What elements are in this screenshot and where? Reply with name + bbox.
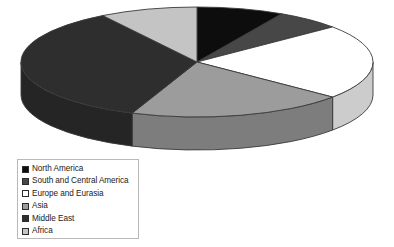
pie-chart: North America South and Central America … xyxy=(0,0,394,247)
legend-swatch-asia xyxy=(22,203,29,210)
legend-label-north-america: North America xyxy=(32,163,83,175)
legend-swatch-north-america xyxy=(22,166,29,173)
legend-item-europe-and-eurasia[interactable]: Europe and Eurasia xyxy=(22,188,138,200)
legend-item-south-and-central-america[interactable]: South and Central America xyxy=(22,175,138,187)
legend-label-south-and-central-america: South and Central America xyxy=(32,175,129,187)
legend-swatch-africa xyxy=(22,228,29,235)
legend-swatch-south-and-central-america xyxy=(22,178,29,185)
legend-item-north-america[interactable]: North America xyxy=(22,163,138,175)
pie-svg xyxy=(0,0,394,160)
pie-top-slices xyxy=(21,7,373,117)
legend-item-asia[interactable]: Asia xyxy=(22,200,138,212)
legend-item-africa[interactable]: Africa xyxy=(22,225,138,237)
legend-label-asia: Asia xyxy=(32,200,48,212)
legend: North America South and Central America … xyxy=(17,159,139,239)
legend-label-europe-and-eurasia: Europe and Eurasia xyxy=(32,188,103,200)
legend-label-africa: Africa xyxy=(32,225,53,237)
legend-label-middle-east: Middle East xyxy=(32,213,74,225)
legend-item-middle-east[interactable]: Middle East xyxy=(22,213,138,225)
legend-swatch-europe-and-eurasia xyxy=(22,190,29,197)
legend-swatch-middle-east xyxy=(22,215,29,222)
